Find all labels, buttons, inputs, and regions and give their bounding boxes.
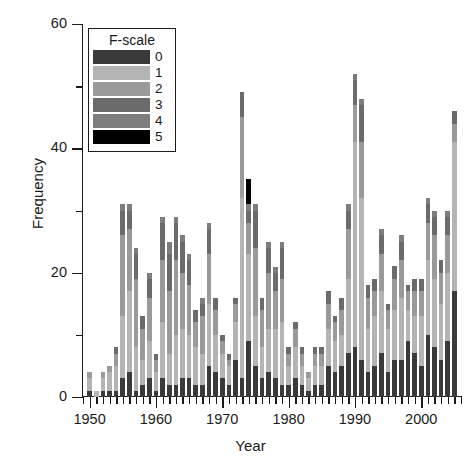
bar-1953 [107,366,112,397]
x-tick-major [355,397,356,408]
bar-1960 [154,353,159,397]
bar-segment-f0 [280,385,285,397]
bar-segment-f0 [193,385,198,397]
bar-segment-f0 [213,372,218,397]
bar-1978 [273,266,278,397]
legend-label-f3: 3 [150,98,163,112]
bar-1982 [300,347,305,397]
bar-segment-f1 [167,354,172,385]
x-tick-minor [362,397,363,404]
x-tick-minor [322,397,323,404]
bar-segment-f1 [313,366,318,385]
bar-segment-f2 [266,273,271,329]
bar-segment-f0 [87,391,92,397]
bar-segment-f0 [207,366,212,397]
x-tick-minor [262,397,263,404]
bar-segment-f2 [147,298,152,342]
legend-row-f3: 3 [93,98,171,112]
bar-segment-f4 [167,242,172,254]
x-tick-minor [434,397,435,404]
bar-segment-f0 [120,378,125,397]
bar-segment-f2 [426,223,431,260]
legend-row-f2: 2 [93,82,171,96]
bar-segment-f2 [353,105,358,142]
y-axis-label: Frequency [29,114,46,274]
bar-1966 [193,310,198,397]
bar-segment-f2 [399,260,404,297]
bar-segment-f3 [452,111,457,123]
bar-segment-f1 [140,360,145,385]
bar-segment-f1 [233,322,238,359]
bar-1954 [114,347,119,397]
bar-segment-f0 [306,391,311,397]
bar-segment-f2 [207,254,212,304]
bar-segment-f1 [94,391,99,397]
bar-1969 [213,298,218,397]
bar-segment-f2 [127,229,132,291]
bar-1957 [134,248,139,397]
bar-1963 [174,217,179,397]
bar-segment-f1 [319,366,324,385]
bar-segment-f1 [412,316,417,353]
bar-1994 [379,229,384,397]
x-tick-minor [255,397,256,404]
bar-segment-f1 [253,316,258,366]
bar-segment-f1 [114,366,119,391]
bar-segment-f0 [240,378,245,397]
bar-segment-f1 [306,378,311,390]
bar-1956 [127,204,132,397]
x-tick-minor [236,397,237,404]
bar-segment-f3 [260,298,265,310]
bar-segment-f2 [326,304,331,329]
x-tick-label: 1960 [126,412,186,427]
x-tick-minor [242,397,243,404]
bar-segment-f0 [406,341,411,397]
bar-1988 [339,298,344,397]
bar-1984 [313,347,318,397]
bar-segment-f3 [426,204,431,223]
bar-segment-f3 [359,105,364,142]
bar-segment-f0 [392,360,397,397]
bar-segment-f3 [439,260,444,272]
bar-1952 [101,372,106,397]
x-tick-label: 2000 [391,412,451,427]
x-tick-minor [275,397,276,404]
bar-segment-f1 [227,366,232,385]
bar-segment-f2 [419,291,424,316]
x-tick-minor [342,397,343,404]
bar-segment-f3 [266,248,271,273]
bar-segment-f3 [207,229,212,254]
bar-segment-f2 [313,354,318,366]
bar-1997 [399,235,404,397]
legend: F-scale 012345 [88,28,176,152]
bar-segment-f3 [240,92,245,117]
bar-segment-f3 [379,235,384,254]
bar-segment-f2 [233,304,238,323]
bar-segment-f0 [353,347,358,397]
x-tick-minor [454,397,455,404]
bar-1951 [94,391,99,397]
bar-segment-f2 [319,354,324,366]
bar-segment-f2 [140,329,145,360]
x-tick-minor [136,397,137,404]
y-tick-minor [76,211,83,212]
x-tick-minor [295,397,296,404]
x-tick-minor [375,397,376,404]
bar-segment-f1 [187,335,192,379]
x-tick-label: 1990 [325,412,385,427]
x-tick-major [90,397,91,408]
legend-row-f1: 1 [93,66,171,80]
bar-segment-f0 [366,372,371,397]
bar-segment-f1 [240,198,245,378]
bar-segment-f0 [253,366,258,397]
chart-figure: Frequency Year 0204060 19501960197019801… [0,0,469,465]
bar-segment-f1 [366,329,371,373]
bar-segment-f2 [253,248,258,316]
bar-1968 [207,223,212,397]
x-tick-minor [315,397,316,404]
x-tick-minor [428,397,429,404]
bar-1981 [293,322,298,397]
bar-segment-f3 [246,211,251,223]
x-tick-minor [328,397,329,404]
x-tick-minor [448,397,449,404]
